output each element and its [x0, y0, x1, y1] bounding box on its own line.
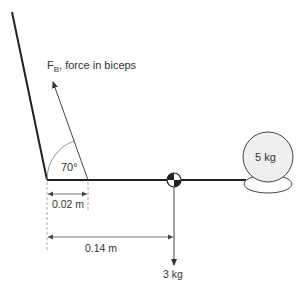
dimension-label-short: 0.02 m: [52, 198, 84, 210]
center-of-gravity-icon: [167, 173, 181, 187]
ball-weight-label: 5 kg: [255, 151, 276, 163]
upper-arm-line: [12, 12, 47, 180]
forearm-weight-label: 3 kg: [163, 268, 183, 280]
force-label: FB, force in biceps: [47, 59, 137, 74]
angle-label: 70°: [61, 161, 78, 173]
biceps-lever-diagram: FB, force in biceps 70° 0.02 m 0.14 m 3 …: [0, 0, 306, 297]
dimension-label-long: 0.14 m: [85, 242, 117, 254]
